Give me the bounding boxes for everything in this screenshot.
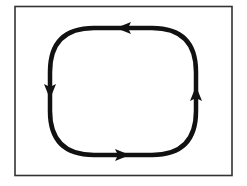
cycle-diagram [0, 0, 247, 186]
cycle-loop-path [50, 28, 196, 155]
